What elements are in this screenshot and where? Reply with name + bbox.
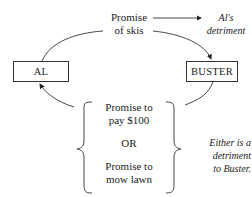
option2-line2: mow lawn	[92, 173, 166, 186]
side-note-line3: to Buster.	[191, 162, 251, 175]
options-group: Promise to pay $100 OR Promise to mow la…	[92, 101, 166, 186]
side-note-line2: detriment	[191, 149, 251, 162]
option1-line1: Promise to	[92, 101, 166, 114]
arc-options-to-al	[40, 84, 74, 107]
right-brace	[166, 102, 181, 193]
arc-buster-to-options	[185, 82, 213, 105]
option2-line1: Promise to	[92, 160, 166, 173]
node-al: AL	[13, 61, 69, 82]
promise-of-skis: Promise of skis	[104, 11, 154, 37]
promise-line2: of skis	[104, 24, 154, 37]
al-note-line1: Al's	[202, 11, 250, 24]
promise-line1: Promise	[104, 11, 154, 24]
buster-detriment-note: Either is a detriment to Buster.	[191, 136, 251, 175]
option1-line2: pay $100	[92, 114, 166, 127]
al-note-line2: detriment	[202, 24, 250, 37]
or-label: OR	[92, 137, 166, 150]
left-brace	[77, 102, 92, 193]
node-buster: BUSTER	[186, 61, 238, 82]
arc-al-to-promise	[42, 31, 103, 61]
side-note-line1: Either is a	[191, 136, 251, 149]
al-detriment-note: Al's detriment	[202, 11, 250, 37]
